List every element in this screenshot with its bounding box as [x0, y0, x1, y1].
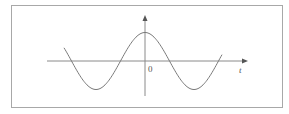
y-axis-arrow-icon	[143, 15, 148, 21]
cosine-diagram: 0 t	[0, 0, 289, 114]
t-axis-label: t	[239, 65, 242, 75]
origin-label: 0	[148, 64, 153, 74]
x-axis-arrow-icon	[242, 59, 248, 64]
